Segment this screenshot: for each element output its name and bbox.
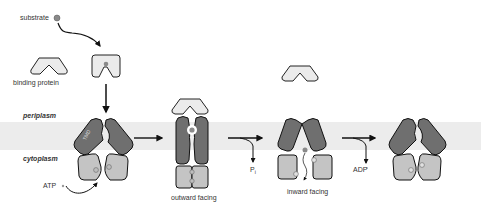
cytoplasm-label: cytoplasm — [23, 155, 58, 162]
diagram-graphics — [0, 0, 481, 202]
atp-icon — [62, 185, 64, 187]
binding-protein-label: binding protein — [13, 79, 59, 86]
atp-label: ATP — [43, 182, 56, 189]
substrate-arrow — [58, 23, 100, 46]
pi-label: Pi — [250, 166, 256, 175]
abc-transporter-diagram: substrate binding protein periplasm cyto… — [0, 0, 481, 202]
adp-label: ADP — [353, 166, 367, 173]
periplasm-label: periplasm — [23, 112, 56, 119]
binding-protein-icon — [31, 58, 67, 74]
substrate-icon — [54, 15, 60, 21]
transporter-state-outward-facing — [172, 99, 208, 188]
outward-facing-label: outward facing — [171, 194, 217, 201]
inward-facing-label: inward facing — [287, 188, 328, 195]
substrate-label: substrate — [20, 14, 49, 21]
pi-subscript: i — [255, 169, 256, 175]
atp-arrow — [66, 183, 97, 193]
